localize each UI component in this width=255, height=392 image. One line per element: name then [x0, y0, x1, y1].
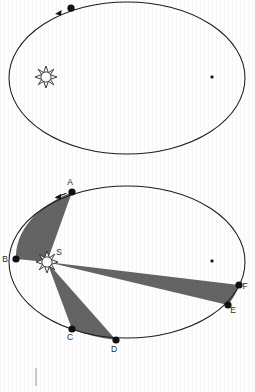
sun-marker-lower — [36, 251, 58, 273]
lower-panel: A B C D E F S — [2, 177, 247, 354]
orbit-point-d — [112, 336, 119, 343]
label-point-c: C — [67, 332, 73, 342]
label-point-e: E — [230, 305, 236, 315]
empty-focus-dot-lower — [211, 260, 214, 263]
orbit-point-b — [12, 255, 19, 262]
kepler-second-law-diagram: A B C D E F S — [0, 0, 255, 392]
empty-focus-dot-upper — [211, 76, 214, 79]
label-point-a: A — [67, 177, 73, 187]
orbit-point-a — [68, 188, 75, 195]
label-point-f: F — [242, 281, 247, 291]
label-point-d: D — [111, 344, 117, 354]
label-sun-s: S — [56, 247, 62, 257]
figure-root: A B C D E F S — [0, 0, 255, 392]
sector-SAB — [16, 192, 72, 262]
label-point-b: B — [2, 254, 8, 264]
upper-panel — [9, 2, 245, 154]
planet-dot-upper — [67, 5, 74, 12]
sun-marker-upper — [35, 66, 57, 88]
